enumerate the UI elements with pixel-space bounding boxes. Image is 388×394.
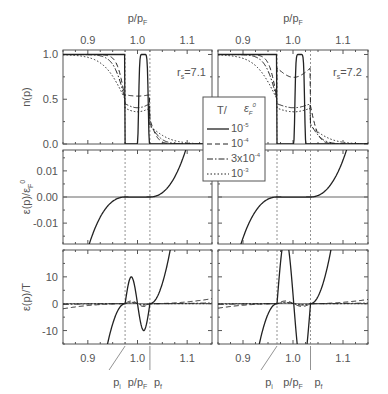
pf-label: pf: [314, 376, 322, 390]
top-x-tick-label: 0.9: [80, 34, 95, 46]
y-tick-label: 0.00: [37, 191, 58, 203]
y-axis-label-1: ε(p)/εF0: [19, 180, 34, 215]
top-x-tick-label: 1.1: [180, 34, 195, 46]
top-x-tick-label: 1.0: [130, 34, 145, 46]
rs-label: rs=7.2: [333, 66, 362, 80]
top-x-tick-label: 0.9: [235, 34, 250, 46]
figure: 0.00.51.0-0.010.000.01-100100.91.01.1p/p…: [0, 0, 388, 394]
bottom-x-tick-label: 0.9: [80, 352, 95, 364]
panel-r2-c1: [218, 247, 368, 346]
curve-solid: [218, 51, 368, 352]
axes-frame: [63, 250, 212, 344]
bottom-x-axis-label: p/pF: [283, 376, 303, 390]
y-tick-label: 0.5: [43, 93, 58, 105]
y-tick-label: -10: [42, 325, 58, 337]
bottom-x-tick-label: 0.9: [235, 352, 250, 364]
legend: T/εF010-510-43x10-410-3: [203, 97, 265, 181]
top-x-tick-label: 1.1: [335, 34, 350, 46]
panel-r0-c0: 0.00.51.0: [43, 48, 212, 150]
panel-r1-c1: [218, 51, 368, 352]
curve-solid: [63, 247, 212, 346]
pi-label: pi: [113, 376, 121, 390]
pi-label-leader: [109, 346, 125, 370]
y-tick-label: -0.01: [33, 217, 58, 229]
y-axis-label-2: ε(p)/T: [20, 283, 32, 311]
bottom-x-tick-label: 1.0: [130, 352, 145, 364]
top-x-axis-label: p/pF: [128, 12, 148, 26]
y-tick-label: 1.0: [43, 48, 58, 60]
pf-label: pf: [154, 376, 162, 390]
y-tick-label: 0.0: [43, 138, 58, 150]
rs-label: rs=7.1: [177, 66, 206, 80]
bottom-x-axis-label: p/pF: [128, 376, 148, 390]
panel-r2-c0: -10010: [42, 247, 212, 346]
curve-solid: [218, 247, 368, 346]
bottom-x-tick-label: 1.1: [180, 352, 195, 364]
bottom-x-tick-label: 1.1: [335, 352, 350, 364]
y-axis-label-0: n(p): [20, 87, 32, 107]
pi-label-leader: [261, 346, 277, 370]
legend-title: T/: [217, 104, 228, 116]
y-tick-label: 0.01: [37, 165, 58, 177]
top-x-axis-label: p/pF: [283, 12, 303, 26]
bottom-x-tick-label: 1.0: [285, 352, 300, 364]
y-tick-label: 10: [46, 271, 58, 283]
pi-label: pi: [265, 376, 273, 390]
y-tick-label: 0: [52, 298, 58, 310]
top-x-tick-label: 1.0: [285, 34, 300, 46]
